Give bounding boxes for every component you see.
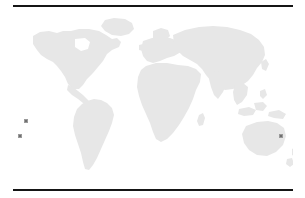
landmass-africa (137, 63, 201, 142)
landmass-borneo (254, 102, 267, 111)
landmass-south-america (73, 99, 114, 170)
world-map-figure (0, 0, 305, 198)
landmass-australia (242, 121, 286, 156)
landmass-new-zealand-south (286, 158, 293, 167)
landmass-greenland (101, 18, 134, 36)
landmass-india (209, 71, 227, 99)
map-canvas (13, 9, 293, 187)
top-rule (13, 5, 293, 7)
world-map-svg (13, 9, 293, 187)
landmass-indonesia (238, 107, 256, 116)
map-marker-1[interactable] (24, 119, 28, 123)
landmass-new-zealand (292, 147, 293, 157)
landmass-southeast-asia (233, 83, 248, 105)
landmass-madagascar (197, 113, 205, 126)
bottom-rule (13, 189, 293, 191)
map-marker-2[interactable] (18, 134, 22, 138)
landmass-new-guinea (268, 110, 286, 119)
landmass-north-america (33, 29, 121, 89)
landmass-philippines (260, 89, 267, 99)
map-marker-3[interactable] (279, 134, 283, 138)
